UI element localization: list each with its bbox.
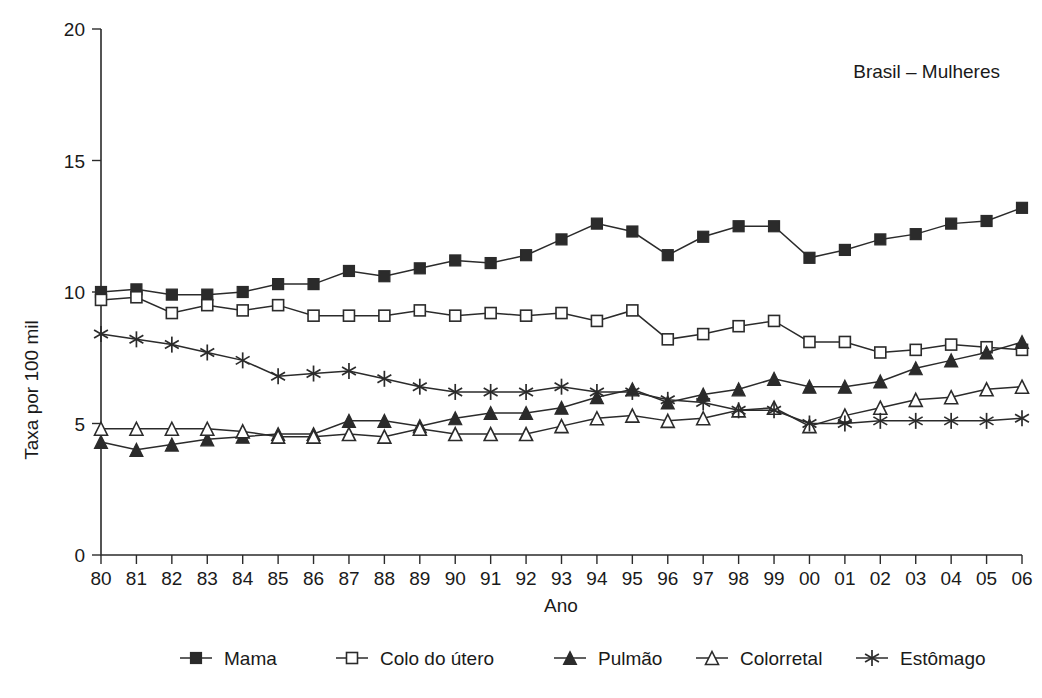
data-point [733,221,744,232]
data-point [769,315,780,326]
x-tick-label: 98 [728,568,749,589]
legend-item-colo-do-tero[interactable]: Colo do útero [336,648,494,669]
y-tick-label: 0 [74,545,85,566]
data-point [555,420,568,433]
data-point [733,321,744,332]
x-tick-label: 91 [480,568,501,589]
data-point [839,336,850,347]
x-tick-label: 96 [657,568,678,589]
data-point [343,265,354,276]
x-tick-label: 94 [586,568,608,589]
data-point [414,305,425,316]
x-tick-label: 99 [763,568,784,589]
data-point [698,329,709,340]
data-point [945,354,958,367]
series-pulm-o [95,335,1029,456]
data-point [343,310,354,321]
data-point [379,271,390,282]
y-tick-label: 20 [64,19,85,40]
data-point [627,305,638,316]
x-tick-label: 02 [870,568,891,589]
data-point [236,352,250,368]
data-point [839,244,850,255]
data-point [946,339,957,350]
data-point [308,310,319,321]
data-point [1017,202,1028,213]
y-tick-label: 5 [74,414,85,435]
data-point [485,258,496,269]
data-point [662,250,673,261]
data-point [981,215,992,226]
data-point [521,310,532,321]
series-group [94,202,1029,456]
data-point [1016,335,1029,348]
data-point [875,347,886,358]
series-mama [96,202,1028,300]
series-path [101,208,1022,295]
x-axis-label: Ano [544,595,578,616]
data-point [308,279,319,290]
data-point [768,372,781,385]
x-tick-label: 89 [409,568,430,589]
x-tick-label: 86 [303,568,324,589]
x-tick-label: 00 [799,568,820,589]
legend-item-colorretal[interactable]: Colorretal [696,648,822,669]
data-point [909,362,922,375]
x-tick-label: 06 [1011,568,1032,589]
x-tick-label: 85 [268,568,289,589]
y-tick-label: 10 [64,282,85,303]
data-point [875,234,886,245]
x-tick-label: 87 [338,568,359,589]
data-point [202,289,213,300]
x-tick-label: 01 [834,568,855,589]
x-tick-label: 90 [445,568,466,589]
legend-item-est-mago[interactable]: Estômago [856,648,986,669]
x-tick-label: 93 [551,568,572,589]
data-point [273,300,284,311]
x-tick-label: 83 [197,568,218,589]
data-point [485,308,496,319]
data-point [627,226,638,237]
data-point [273,279,284,290]
data-point [202,300,213,311]
line-chart: 0510152080818283848586878889909192939495… [0,0,1042,698]
chart-container: 0510152080818283848586878889909192939495… [0,0,1042,698]
x-tick-label: 84 [232,568,254,589]
legend-marker-filled-square-icon [191,653,202,664]
x-tick-label: 04 [941,568,963,589]
chart-annotation: Brasil – Mulheres [853,61,1000,82]
legend-item-mama[interactable]: Mama [180,648,277,669]
data-point [237,305,248,316]
data-point [237,287,248,298]
x-tick-label: 92 [516,568,537,589]
data-point [96,294,107,305]
data-point [131,292,142,303]
x-tick-label: 95 [622,568,643,589]
legend-item-pulm-o[interactable]: Pulmão [554,648,662,669]
data-point [556,308,567,319]
data-point [521,250,532,261]
legend-label: Colo do útero [380,648,494,669]
y-tick-label: 15 [64,151,85,172]
data-point [450,255,461,266]
data-point [166,308,177,319]
data-point [166,289,177,300]
data-point [95,435,108,448]
data-point [450,310,461,321]
x-tick-label: 03 [905,568,926,589]
data-point [200,344,214,360]
data-point [874,401,887,414]
data-point [698,231,709,242]
x-tick-label: 81 [126,568,147,589]
data-point [379,310,390,321]
series-colo-do-tero [96,292,1028,358]
data-point [804,252,815,263]
legend-label: Pulmão [598,648,662,669]
data-point [910,229,921,240]
x-tick-label: 05 [976,568,997,589]
data-point [804,336,815,347]
data-point [377,371,391,387]
x-tick-label: 82 [161,568,182,589]
legend-label: Colorretal [740,648,822,669]
data-point [556,234,567,245]
